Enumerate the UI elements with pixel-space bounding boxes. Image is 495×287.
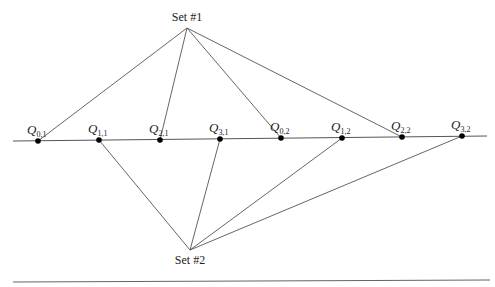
point-dot-Q2-2 — [399, 134, 405, 140]
point-label-Q2-2: Q2,2 — [391, 118, 410, 135]
point-label-Q0-2: Q0,2 — [270, 119, 289, 136]
connector-set1-Q2-1 — [160, 28, 187, 140]
connector-set2-Q1-2 — [190, 138, 342, 250]
point-label-Q3-1: Q3,1 — [209, 120, 228, 137]
set-query-diagram: Q0,1Q1,1Q2,1Q3,1Q0,2Q1,2Q2,2Q3,2 Set #1S… — [0, 0, 495, 287]
point-label-Q2-1: Q2,1 — [149, 121, 168, 138]
set-label-set2: Set #2 — [175, 253, 205, 267]
point-label-Q1-2: Q1,2 — [331, 119, 350, 136]
point-label-Q1-1: Q1,1 — [88, 121, 107, 138]
connector-set2-Q3-1 — [190, 139, 220, 250]
connector-set2-Q1-1 — [99, 140, 190, 250]
point-dot-Q1-1 — [96, 137, 102, 143]
axis-line — [13, 136, 487, 141]
set-labels: Set #1Set #2 — [172, 10, 205, 267]
point-label-Q0-1: Q0,1 — [27, 122, 46, 139]
point-dot-Q0-2 — [278, 135, 284, 141]
point-dot-Q3-2 — [459, 133, 465, 139]
point-dot-Q2-1 — [157, 137, 163, 143]
point-dot-Q3-1 — [217, 136, 223, 142]
connector-set2-Q3-2 — [190, 136, 462, 250]
connector-set1-Q0-2 — [187, 28, 281, 138]
point-label-Q3-2: Q3,2 — [451, 117, 470, 134]
set-label-set1: Set #1 — [172, 10, 202, 24]
connector-set1-Q2-2 — [187, 28, 402, 137]
point-dot-Q0-1 — [35, 138, 41, 144]
connector-set1-Q0-1 — [38, 28, 187, 141]
point-dot-Q1-2 — [339, 135, 345, 141]
bottom-rule — [13, 280, 490, 282]
